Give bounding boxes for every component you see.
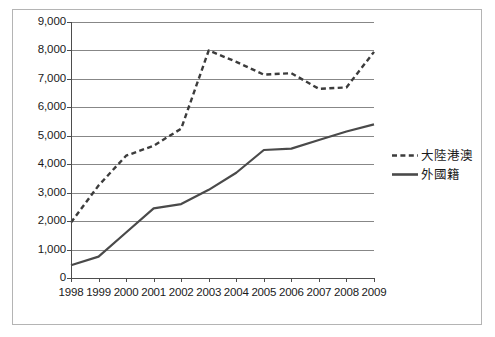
x-tick-label: 2009 [354, 286, 394, 298]
legend-item: 大陸港澳 [392, 146, 480, 165]
y-tick-mark [67, 22, 71, 23]
x-tick-mark [99, 278, 100, 282]
y-tick-mark [67, 107, 71, 108]
x-tick-mark [346, 278, 347, 282]
y-tick-mark [67, 250, 71, 251]
legend-label: 大陸港澳 [421, 149, 473, 162]
x-tick-mark [209, 278, 210, 282]
dashed-line-icon [392, 150, 418, 161]
x-tick-mark [236, 278, 237, 282]
x-tick-mark [291, 278, 292, 282]
x-tick-mark [71, 278, 72, 282]
y-tick-mark [67, 221, 71, 222]
legend-item: 外國籍 [392, 165, 480, 184]
x-tick-mark [264, 278, 265, 282]
y-tick-mark [67, 79, 71, 80]
x-tick-mark [126, 278, 127, 282]
chart-figure: 01,0002,0003,0004,0005,0006,0007,0008,00… [0, 0, 495, 337]
y-tick-mark [67, 50, 71, 51]
y-tick-mark [67, 136, 71, 137]
solid-line-icon [392, 169, 418, 180]
legend-label: 外國籍 [421, 168, 460, 181]
legend: 大陸港澳外國籍 [392, 146, 480, 184]
x-tick-mark [319, 278, 320, 282]
y-tick-mark [67, 164, 71, 165]
x-tick-mark [181, 278, 182, 282]
x-tick-mark [374, 278, 375, 282]
y-tick-mark [67, 193, 71, 194]
x-tick-mark [154, 278, 155, 282]
y-tick-mark [67, 278, 71, 279]
